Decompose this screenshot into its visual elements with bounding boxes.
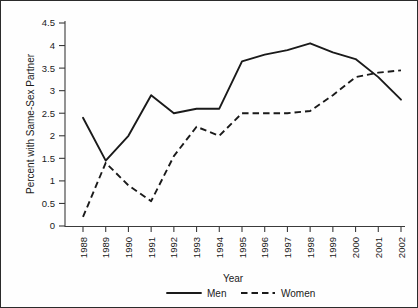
- y-tick-label: 3: [50, 85, 55, 96]
- legend-label-women: Women: [281, 288, 315, 299]
- x-tick-label: 2001: [373, 237, 384, 258]
- x-tick-label: 2000: [350, 237, 361, 258]
- y-tick-label: 2.5: [42, 108, 55, 119]
- x-axis-title: Year: [223, 273, 244, 284]
- y-tick-label: 1: [50, 175, 55, 186]
- x-tick-label: 2002: [396, 237, 407, 258]
- x-tick-label: 1988: [78, 237, 89, 258]
- y-tick-label: 3.5: [42, 63, 55, 74]
- x-tick-label: 1994: [214, 237, 225, 258]
- x-tick-group: 1988198919901991199219931994199519961997…: [78, 226, 407, 258]
- y-tick-label: 0: [50, 220, 55, 231]
- x-tick-label: 1996: [259, 237, 270, 258]
- x-tick-label: 1990: [123, 237, 134, 258]
- y-tick-group: 00.511.522.533.544.5: [42, 17, 65, 231]
- x-axis: 1988198919901991199219931994199519961997…: [65, 226, 407, 258]
- x-tick-label: 1997: [282, 237, 293, 258]
- y-tick-label: 0.5: [42, 198, 55, 209]
- line-chart: 00.511.522.533.544.5 1988198919901991199…: [1, 1, 418, 308]
- x-tick-label: 1992: [168, 237, 179, 258]
- y-axis-title: Percent with Same-Sex Partner: [25, 53, 36, 194]
- x-tick-label: 1995: [237, 237, 248, 258]
- legend-label-men: Men: [207, 288, 226, 299]
- y-tick-label: 4.5: [42, 17, 55, 28]
- x-tick-label: 1998: [305, 237, 316, 258]
- y-tick-label: 2: [50, 130, 55, 141]
- series-line-men: [83, 43, 401, 160]
- legend: Men Women: [167, 288, 315, 299]
- series-line-women: [83, 70, 401, 217]
- x-tick-label: 1999: [327, 237, 338, 258]
- x-tick-label: 1993: [191, 237, 202, 258]
- x-tick-label: 1991: [146, 237, 157, 258]
- y-axis: 00.511.522.533.544.5: [42, 17, 65, 231]
- y-tick-label: 4: [50, 40, 55, 51]
- x-tick-label: 1989: [100, 237, 111, 258]
- y-tick-label: 1.5: [42, 153, 55, 164]
- chart-frame: 00.511.522.533.544.5 1988198919901991199…: [0, 0, 418, 308]
